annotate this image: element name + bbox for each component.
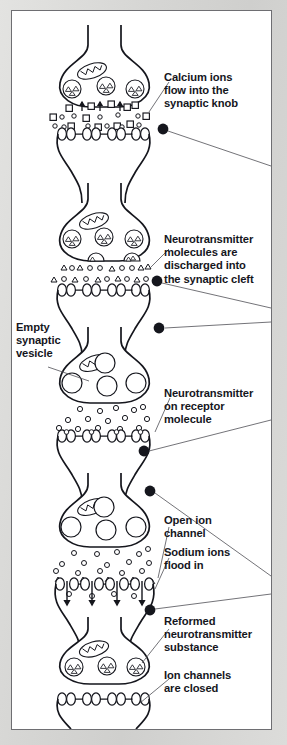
- panel-1-calcium-influx: [50, 25, 150, 203]
- bullet-6: [145, 605, 156, 616]
- sodium-circles-4: [54, 547, 152, 599]
- panel-6-channels-closed: [57, 693, 150, 729]
- empty-vesicle-3-1: [62, 373, 82, 393]
- ion-channels-1: [58, 128, 150, 140]
- ion-channels-closed-6: [58, 693, 150, 705]
- bullet-markers: [139, 124, 271, 616]
- bullet-2: [152, 276, 163, 287]
- label-open-ion-channel: Open ion channel: [164, 514, 244, 540]
- label-empty-synaptic-vesicle: Empty synaptic vesicle: [16, 321, 76, 361]
- vesicle-5-2: [98, 657, 116, 675]
- vesicle-1-3: [126, 80, 144, 98]
- bullet-line-1: [168, 131, 271, 166]
- bullet-4: [139, 446, 150, 457]
- empty-vesicle-3-4: [126, 373, 146, 393]
- vesicle-2-2: [95, 228, 113, 246]
- label-neurotransmitter-discharged: Neurotransmitter molecules are discharge…: [164, 233, 272, 286]
- bullet-5: [145, 486, 156, 497]
- neurotransmitter-circles-3: [56, 404, 149, 431]
- empty-vesicle-4-1: [61, 517, 81, 537]
- vesicle-2-3: [125, 230, 143, 248]
- label-neurotransmitter-receptor: Neurotransmitter on receptor molecule: [164, 387, 270, 427]
- label-ion-channels-closed: Ion channels are closed: [164, 669, 256, 695]
- bullet-1: [158, 124, 169, 135]
- empty-vesicle-3-2: [95, 353, 115, 373]
- bullet-line-3: [165, 322, 271, 328]
- label-reformed-neurotransmitter: Reformed neurotransmitter substance: [164, 615, 270, 655]
- figure-frame: Calcium ions flow into the synaptic knob…: [11, 10, 272, 730]
- vesicle-1-2: [97, 77, 115, 95]
- ion-channels-3: [58, 430, 150, 442]
- empty-vesicle-3-3: [97, 376, 117, 396]
- vesicle-5-1: [65, 658, 83, 676]
- vesicle-2-1: [63, 230, 81, 248]
- empty-vesicle-4-2: [94, 497, 114, 517]
- bullet-line-6: [155, 594, 271, 609]
- label-sodium-ions: Sodium ions flood in: [164, 546, 252, 572]
- ion-channels-open-4: [56, 578, 154, 590]
- ion-channels-2: [58, 284, 150, 296]
- panel-5-reformed-neurotransmitter: [60, 617, 150, 684]
- label-calcium-ions: Calcium ions flow into the synaptic knob: [164, 71, 268, 111]
- vesicle-1-1: [63, 80, 81, 98]
- empty-vesicle-4-3: [96, 520, 116, 540]
- vesicle-5-3: [127, 658, 145, 676]
- bullet-3: [154, 323, 165, 334]
- bullet-line-2: [162, 283, 271, 308]
- neurotransmitter-particles-2: [51, 264, 151, 282]
- empty-vesicle-4-4: [126, 517, 146, 537]
